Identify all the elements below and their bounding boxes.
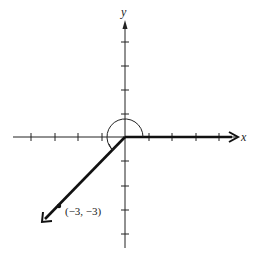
y-axis-arrow-icon	[123, 20, 128, 29]
point-marker	[57, 204, 61, 208]
x-axis-label: x	[240, 130, 247, 144]
y-axis-label: y	[120, 5, 127, 19]
coordinate-plane: x y (−3, −3)	[0, 0, 254, 255]
point-label: (−3, −3)	[65, 205, 102, 218]
